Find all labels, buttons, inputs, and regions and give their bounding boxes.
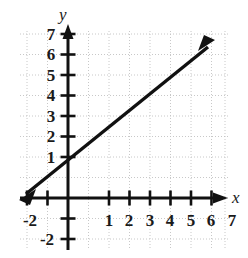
x-tick-label-5: 5 [183, 212, 199, 229]
graph-figure: y x -2 1 2 3 4 5 6 7 7 6 5 4 3 2 1 -2 [0, 0, 248, 258]
x-axis [20, 193, 228, 204]
y-tick-label-1: 1 [43, 149, 59, 166]
x-tick-label-4: 4 [162, 212, 178, 229]
y-tick-label-6: 6 [43, 46, 59, 63]
x-tick-label-1: 1 [101, 212, 117, 229]
y-tick-label-7: 7 [43, 26, 59, 43]
y-tick-label-3: 3 [43, 108, 59, 125]
y-axis-label: y [59, 6, 67, 23]
x-tick-label-7: 7 [224, 212, 240, 229]
x-tick-label-3: 3 [142, 212, 158, 229]
y-tick-label-2: 2 [43, 128, 59, 145]
x-tick-label-2: 2 [121, 212, 137, 229]
x-tick-label--2: -2 [18, 212, 42, 229]
x-axis-label: x [232, 189, 240, 206]
y-tick-label--2: -2 [35, 231, 59, 248]
y-axis-arrowhead [63, 24, 74, 39]
y-tick-label-5: 5 [43, 67, 59, 84]
x-tick-label-6: 6 [203, 212, 219, 229]
x-axis-arrowhead [213, 193, 228, 204]
y-tick-label-4: 4 [43, 87, 59, 104]
